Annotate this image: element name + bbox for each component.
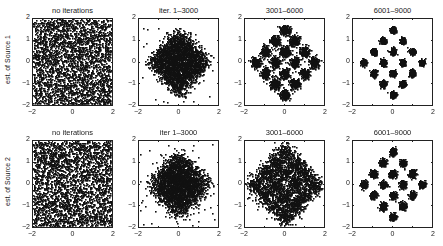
x-tick-label: 0: [279, 230, 291, 237]
y-tick-label: 1: [342, 35, 350, 42]
y-tick-label: 2: [234, 13, 242, 20]
y-tick-label: 2: [22, 135, 30, 142]
y-tick-label: 1: [234, 157, 242, 164]
panel-title: iter. 1–3000: [138, 6, 219, 15]
scatter-plot-6: [138, 140, 219, 228]
scatter-plot-7: [244, 140, 325, 228]
y-tick-label: 0: [234, 179, 242, 186]
y-tick-label: 1: [234, 35, 242, 42]
y-tick-label: −2: [128, 101, 136, 108]
y-tick-label: −2: [234, 223, 242, 230]
y-tick-label: 1: [128, 157, 136, 164]
panel-title: 6001–9000: [352, 128, 433, 137]
y-tick-label: 0: [342, 57, 350, 64]
y-tick-label: −1: [342, 79, 350, 86]
x-tick-label: 0: [173, 230, 185, 237]
x-tick-label: 0: [173, 108, 185, 115]
x-tick-label: 2: [319, 108, 331, 115]
y-tick-label: −1: [234, 79, 242, 86]
y-tick-label: −1: [234, 201, 242, 208]
y-tick-label: −2: [342, 101, 350, 108]
scatter-plot-4: [352, 18, 433, 106]
panel-title: iter 1–3000: [138, 128, 219, 137]
y-tick-label: 2: [234, 135, 242, 142]
y-tick-label: 1: [22, 157, 30, 164]
panel-title: no iterations: [32, 6, 113, 15]
panel-title: no iterations: [32, 128, 113, 137]
x-tick-label: 0: [279, 108, 291, 115]
x-tick-label: 2: [319, 230, 331, 237]
scatter-plot-3: [244, 18, 325, 106]
y-tick-label: 0: [22, 179, 30, 186]
y-tick-label: 1: [342, 157, 350, 164]
y-tick-label: 0: [342, 179, 350, 186]
x-tick-label: −2: [238, 230, 250, 237]
y-tick-label: 1: [22, 35, 30, 42]
y-tick-label: −2: [234, 101, 242, 108]
x-tick-label: 2: [427, 108, 439, 115]
x-tick-label: 0: [387, 108, 399, 115]
y-tick-label: −1: [22, 201, 30, 208]
y-tick-label: 2: [342, 135, 350, 142]
y-tick-label: −1: [128, 201, 136, 208]
panel-title: 3001–6000: [244, 6, 325, 15]
y-tick-label: 2: [128, 13, 136, 20]
y-tick-label: 2: [342, 13, 350, 20]
y-tick-label: 0: [22, 57, 30, 64]
y-tick-label: −2: [342, 223, 350, 230]
y-tick-label: −1: [342, 201, 350, 208]
x-tick-label: 2: [427, 230, 439, 237]
x-tick-label: 0: [67, 230, 79, 237]
x-tick-label: −2: [132, 230, 144, 237]
x-tick-label: 2: [107, 108, 119, 115]
y-tick-label: 0: [128, 57, 136, 64]
y-tick-label: 2: [22, 13, 30, 20]
y-tick-label: 1: [128, 35, 136, 42]
x-tick-label: −2: [26, 108, 38, 115]
x-tick-label: 0: [387, 230, 399, 237]
y-tick-label: −1: [22, 79, 30, 86]
y-tick-label: 2: [128, 135, 136, 142]
row-2-ylabel: est. of Source 2: [4, 147, 11, 217]
x-tick-label: 2: [213, 108, 225, 115]
scatter-plot-8: [352, 140, 433, 228]
x-tick-label: 2: [107, 230, 119, 237]
x-tick-label: 2: [213, 230, 225, 237]
x-tick-label: −2: [346, 108, 358, 115]
y-tick-label: 0: [128, 179, 136, 186]
x-tick-label: −2: [346, 230, 358, 237]
row-1-ylabel: est. of Source 1: [4, 25, 11, 95]
y-tick-label: −2: [22, 101, 30, 108]
scatter-plot-2: [138, 18, 219, 106]
x-tick-label: −2: [132, 108, 144, 115]
x-tick-label: −2: [238, 108, 250, 115]
x-tick-label: 0: [67, 108, 79, 115]
y-tick-label: −2: [22, 223, 30, 230]
panel-title: 3001–6000: [244, 128, 325, 137]
y-tick-label: 0: [234, 57, 242, 64]
scatter-plot-1: [32, 18, 113, 106]
scatter-plot-5: [32, 140, 113, 228]
x-tick-label: −2: [26, 230, 38, 237]
y-tick-label: −1: [128, 79, 136, 86]
y-tick-label: −2: [128, 223, 136, 230]
panel-title: 6001–9000: [352, 6, 433, 15]
